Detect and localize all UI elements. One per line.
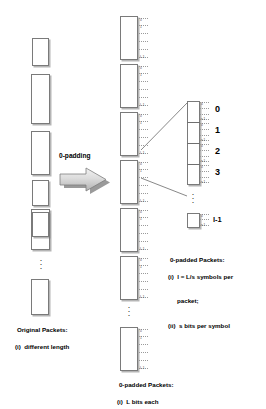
symbol-packets-caption-line-2: packet; [163,297,233,305]
bit-label-first: 0 [140,259,142,262]
padded-packet-5 [120,208,138,252]
bit-label-last: L-1 [140,367,144,370]
padded-packets-caption-title: 0-padded Packets: [119,381,174,388]
bit-label-second: 1 [140,337,142,340]
symbol-packets-caption-line-3: (ii) s bits per symbol [163,322,233,330]
original-packet-2 [31,74,50,124]
padded-packets-ellipsis: ··· [121,305,137,318]
bit-label-first: 0 [140,115,142,118]
symbol-index-0: 0 [215,104,220,114]
original-packets-caption-item-1: (i) different length [10,343,69,351]
original-packets-ellipsis: ··· [33,258,49,271]
bit-label-first: 0 [140,163,142,166]
bit-label-first: 0 [201,145,203,148]
symbol-packets-caption-line-1: (i) l = L/s symbols per [163,273,233,281]
original-packet-4 [32,180,49,206]
padded-packet-2-bit-ticks: 0 1 L-1 [139,64,149,108]
bit-label-second: 1 [140,170,142,173]
bit-label-last: s-1 [201,181,205,184]
padded-packet-6-bit-ticks: 0 1 L-1 [139,256,149,300]
original-packet-3 [31,131,50,175]
bit-label-last: s-1 [201,139,205,142]
bit-label-last: L-1 [140,104,144,107]
bit-label-first: 0 [201,124,203,127]
symbol-3-bit-ticks: 0 s-1 [200,164,210,185]
padded-packet-1-bit-ticks: 0 1 L-1 [139,16,149,60]
padded-packet-4-bit-ticks: 0 1 L-1 [139,160,149,204]
original-packet-1 [32,38,49,66]
bit-label-second: 1 [140,74,142,77]
padded-packet-2 [120,64,138,108]
symbol-packets-caption: 0-padded Packets: (i) l = L/s symbols pe… [163,248,233,346]
bit-label-first: 0 [140,67,142,70]
symbol-packets-caption-title: 0-padded Packets: [170,256,225,263]
symbol-divider-1 [187,122,200,123]
padding-label: 0-padding [59,152,91,159]
symbol-2-bit-ticks: 0 s-1 [200,143,210,164]
bit-label-last: L-1 [140,248,144,251]
bit-label-second: 1 [140,26,142,29]
bit-label-last: L-1 [140,296,144,299]
bit-label-second: 1 [140,122,142,125]
symbol-divider-2 [187,143,200,144]
symbol-last-bit-ticks: 0 s-1 [200,213,210,228]
bit-label-last: L-1 [140,56,144,59]
padded-packet-n-bit-ticks: 0 1 L-1 [139,327,149,371]
original-packets-caption: Original Packets: (i) different length [10,318,69,367]
symbol-ellipsis: ··· [186,192,200,205]
bit-label-last: L-1 [140,200,144,203]
padded-packet-6 [120,256,138,300]
bit-label-first: 0 [140,211,142,214]
bit-label-first: 0 [140,330,142,333]
symbol-packet-last [187,213,200,228]
symbol-1-bit-ticks: 0 s-1 [200,122,210,143]
bit-label-last: s-1 [201,224,205,227]
bit-label-first: 0 [140,19,142,22]
padded-packets-caption-item-1: (i) L bits each [112,398,174,406]
padded-packet-3 [120,112,138,156]
symbol-index-3: 3 [215,167,220,177]
bit-label-last: s-1 [201,160,205,163]
bit-label-first: 0 [201,166,203,169]
padded-packet-3-bit-ticks: 0 1 L-1 [139,112,149,156]
bit-label-first: 0 [201,103,203,106]
padded-packet-4 [120,160,138,204]
padded-packet-5-bit-ticks: 0 1 L-1 [139,208,149,252]
symbol-index-2: 2 [215,146,220,156]
symbol-index-1: 1 [215,125,220,135]
bit-label-second: 1 [140,218,142,221]
padding-arrow [58,166,110,196]
padded-packet-1 [120,16,138,60]
padded-packet-n [120,327,138,371]
bit-label-second: 1 [140,266,142,269]
symbol-index-last: l-1 [213,215,222,224]
symbol-0-bit-ticks: 0 s-1 [200,101,210,122]
original-packet-n [31,279,49,315]
original-packet-6 [32,212,49,237]
bit-label-last: s-1 [201,118,205,121]
padded-packets-caption: 0-padded Packets: (i) L bits each [112,373,174,409]
bit-label-last: L-1 [140,152,144,155]
bit-label-first: 0 [201,215,203,218]
symbol-divider-3 [187,164,200,165]
original-packets-caption-title: Original Packets: [17,326,68,333]
